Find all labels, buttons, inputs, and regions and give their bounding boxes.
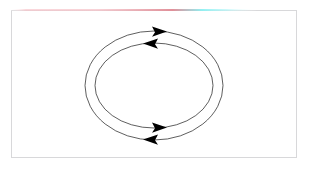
- plot-frame: [11, 10, 297, 158]
- figure-canvas: [0, 0, 309, 170]
